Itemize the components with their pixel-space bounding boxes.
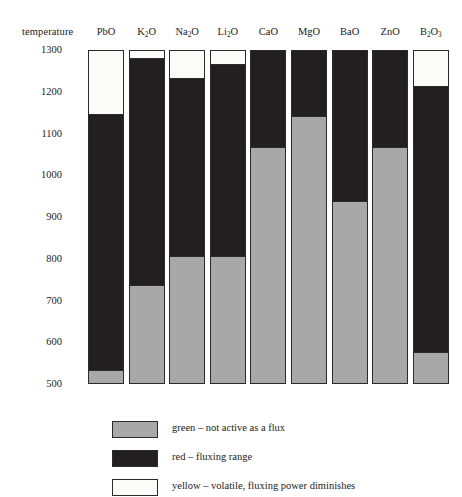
column-header-zno: ZnO	[372, 26, 408, 37]
bar-segment-divider	[292, 116, 326, 117]
bar-segment-green	[251, 147, 285, 384]
legend-swatch-green	[112, 421, 158, 438]
bar-segment-divider	[130, 58, 164, 59]
column-header-na2o: Na2O	[169, 26, 205, 37]
bar-segment-red	[292, 51, 326, 116]
bar-segment-red	[414, 86, 448, 351]
bar-segment-green	[211, 256, 245, 384]
bar-pbo	[88, 50, 124, 384]
column-header-b2o3: B2O3	[413, 26, 449, 37]
y-tick-label: 1300	[14, 44, 62, 55]
bar-segment-green	[414, 352, 448, 384]
bar-segment-divider	[414, 86, 448, 87]
bar-segment-yellow	[170, 51, 204, 78]
column-header-mgo: MgO	[291, 26, 327, 37]
bar-segment-red	[130, 58, 164, 285]
y-axis-title: temperature	[22, 26, 73, 37]
bar-cao	[250, 50, 286, 384]
column-header-cao: CaO	[250, 26, 286, 37]
y-tick-label: 1100	[14, 128, 62, 139]
bar-segment-divider	[211, 64, 245, 65]
bar-segment-divider	[170, 256, 204, 257]
bar-segment-yellow	[89, 51, 123, 114]
bar-segment-divider	[333, 201, 367, 202]
bar-segment-green	[170, 256, 204, 384]
bar-segment-divider	[89, 370, 123, 371]
column-header-pbo: PbO	[88, 26, 124, 37]
y-tick-label: 1200	[14, 86, 62, 97]
bar-segment-red	[333, 51, 367, 201]
bar-segment-divider	[89, 114, 123, 115]
bar-segment-divider	[170, 78, 204, 79]
bar-segment-yellow	[211, 51, 245, 64]
bar-segment-divider	[211, 256, 245, 257]
bar-li2o	[210, 50, 246, 384]
y-tick-label: 500	[14, 378, 62, 389]
bar-segment-green	[373, 147, 407, 384]
bar-zno	[372, 50, 408, 384]
y-tick-label: 800	[14, 253, 62, 264]
legend-label-red: red – fluxing range	[172, 451, 252, 462]
y-tick-label: 600	[14, 336, 62, 347]
bar-segment-green	[89, 370, 123, 384]
column-header-li2o: Li2O	[210, 26, 246, 37]
bar-segment-red	[211, 64, 245, 256]
y-tick-label: 1000	[14, 169, 62, 180]
bar-bao	[332, 50, 368, 384]
bar-segment-divider	[251, 147, 285, 148]
bar-segment-green	[130, 285, 164, 384]
bar-b2o3	[413, 50, 449, 384]
bar-segment-divider	[373, 147, 407, 148]
column-header-bao: BaO	[332, 26, 368, 37]
column-header-k2o: K2O	[129, 26, 165, 37]
legend-label-yellow: yellow – volatile, fluxing power diminis…	[172, 480, 355, 491]
bar-segment-red	[251, 51, 285, 147]
bar-segment-red	[89, 114, 123, 371]
bar-segment-yellow	[414, 51, 448, 86]
y-tick-label: 700	[14, 295, 62, 306]
bar-segment-green	[292, 116, 326, 384]
bar-na2o	[169, 50, 205, 384]
bar-segment-divider	[414, 352, 448, 353]
bar-segment-red	[373, 51, 407, 147]
bar-segment-yellow	[130, 51, 164, 58]
bar-segment-red	[170, 78, 204, 255]
bar-mgo	[291, 50, 327, 384]
y-tick-label: 900	[14, 211, 62, 222]
bar-segment-divider	[130, 285, 164, 286]
legend-label-green: green – not active as a flux	[172, 422, 285, 433]
bar-segment-green	[333, 201, 367, 384]
legend-swatch-yellow	[112, 479, 158, 496]
bar-k2o	[129, 50, 165, 384]
legend-swatch-red	[112, 450, 158, 467]
